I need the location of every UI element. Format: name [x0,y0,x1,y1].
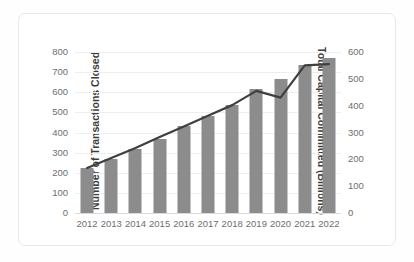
y-axis-left-tick-label: 700 [52,67,68,77]
y-axis-left-tick-label: 100 [52,188,68,198]
y-axis-left-tick-label: 600 [52,88,68,98]
x-axis-tick-label-2018: 2018 [222,219,243,229]
y-axis-left-tick-label: 300 [52,148,68,158]
y-axis-right-tick-label: 200 [348,155,364,165]
y-axis-right-tick-label: 100 [348,181,364,191]
x-axis-ticks: 2012201320142015201620172018201920202021… [75,219,341,235]
y-axis-right-tick-label: 300 [348,128,364,138]
plot-area [75,52,341,213]
y-axis-right-ticks: 0100200300400500600 [348,52,378,213]
y-axis-right-tick-label: 600 [348,47,364,57]
x-axis-tick-label-2019: 2019 [246,219,267,229]
line-series-capital [75,52,341,213]
x-axis-tick-label-2017: 2017 [197,219,218,229]
y-axis-left-tick-label: 0 [63,208,68,218]
y-axis-left-ticks: 0100200300400500600700800 [34,52,68,213]
y-axis-left-tick-label: 800 [52,47,68,57]
y-axis-left-tick-label: 400 [52,128,68,138]
x-axis-tick-label-2014: 2014 [125,219,146,229]
gridline [75,213,341,214]
x-axis-tick-label-2020: 2020 [270,219,291,229]
y-axis-right-tick-label: 400 [348,101,364,111]
x-axis-tick-label-2013: 2013 [101,219,122,229]
y-axis-right-tick-label: 500 [348,74,364,84]
chart-figure: Number of Transactions Closed Total Capi… [0,0,414,262]
x-axis-tick-label-2015: 2015 [149,219,170,229]
y-axis-left-tick-label: 500 [52,108,68,118]
x-axis-tick-label-2021: 2021 [294,219,315,229]
x-axis-tick-label-2012: 2012 [77,219,98,229]
x-axis-tick-label-2016: 2016 [173,219,194,229]
y-axis-right-tick-label: 0 [348,208,353,218]
capital-line-path [87,64,329,168]
y-axis-left-tick-label: 200 [52,168,68,178]
x-axis-tick-label-2022: 2022 [318,219,339,229]
